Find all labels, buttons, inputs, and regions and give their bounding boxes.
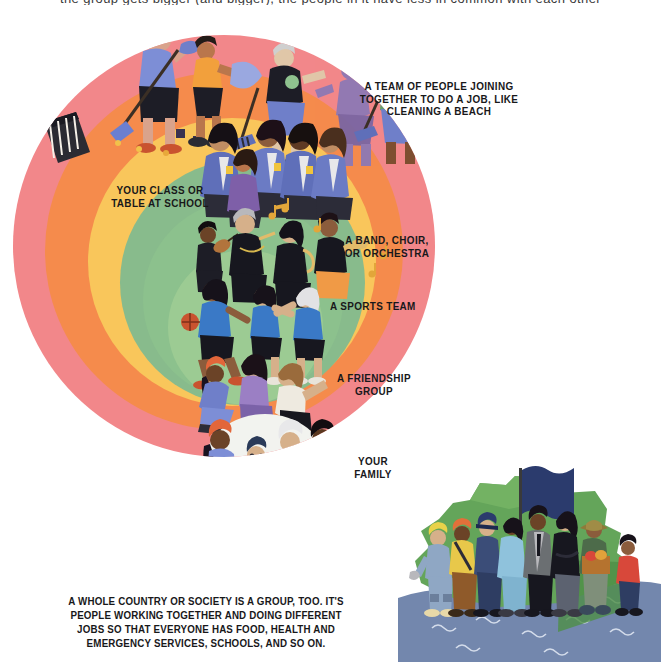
bottom-caption: A WHOLE COUNTRY OR SOCIETY IS A GROUP, T… bbox=[67, 594, 346, 650]
label-school-line1: YOUR CLASS OR bbox=[106, 184, 214, 197]
label-beach-team-line1: A TEAM OF PEOPLE JOINING bbox=[354, 80, 525, 93]
label-beach-team-line3: CLEANING A BEACH bbox=[354, 105, 525, 118]
caption-line2: PEOPLE WORKING TOGETHER AND DOING DIFFER… bbox=[67, 608, 346, 622]
caption-line3: JOBS SO THAT EVERYONE HAS FOOD, HEALTH A… bbox=[67, 622, 346, 636]
circle-friendship-group bbox=[168, 250, 323, 405]
label-band-line1: A BAND, CHOIR, bbox=[338, 234, 437, 247]
label-friendship-group: A FRIENDSHIP GROUP bbox=[331, 372, 417, 397]
label-family-line2: FAMILY bbox=[342, 468, 405, 481]
label-beach-team-line2: TOGETHER TO DO A JOB, LIKE bbox=[354, 93, 525, 106]
label-friendship-line2: GROUP bbox=[331, 385, 417, 398]
infographic-page: the group gets bigger (and bigger), the … bbox=[0, 0, 661, 662]
label-band-line2: OR ORCHESTRA bbox=[338, 247, 437, 260]
label-friendship-line1: A FRIENDSHIP bbox=[331, 372, 417, 385]
label-family-line1: YOUR bbox=[342, 455, 405, 468]
label-school-class: YOUR CLASS OR TABLE AT SCHOOL bbox=[106, 184, 214, 209]
caption-line1: A WHOLE COUNTRY OR SOCIETY IS A GROUP, T… bbox=[67, 594, 346, 608]
label-beach-team: A TEAM OF PEOPLE JOINING TOGETHER TO DO … bbox=[354, 80, 525, 118]
label-sports-line1: A SPORTS TEAM bbox=[330, 300, 429, 313]
label-family: YOUR FAMILY bbox=[342, 455, 405, 480]
top-cutoff-text: the group gets bigger (and bigger), the … bbox=[0, 0, 661, 5]
label-school-line2: TABLE AT SCHOOL bbox=[106, 197, 214, 210]
label-sports-team: A SPORTS TEAM bbox=[330, 300, 429, 313]
country-island-illustration bbox=[398, 466, 661, 662]
label-band: A BAND, CHOIR, OR ORCHESTRA bbox=[338, 234, 437, 259]
caption-line4: EMERGENCY SERVICES, SCHOOLS, AND SO ON. bbox=[67, 636, 346, 650]
